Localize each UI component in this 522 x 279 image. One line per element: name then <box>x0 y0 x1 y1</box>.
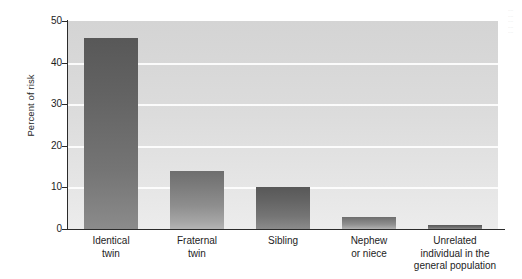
y-axis-tick-label: 50 <box>40 16 62 26</box>
bar-chart-figure: Percent of risk 01020304050 Identical tw… <box>0 0 522 279</box>
bar <box>170 171 224 229</box>
x-axis-category-label: Fraternal twin <box>152 235 242 260</box>
bar <box>84 38 138 229</box>
y-axis-tick-mark <box>62 104 68 105</box>
y-axis-tick-mark <box>62 21 68 22</box>
y-axis-title: Percent of risk <box>25 46 36 166</box>
page-margin-text: ···················· <box>508 8 522 36</box>
y-axis-tick-label: 30 <box>40 99 62 109</box>
y-axis-tick-mark <box>62 229 68 230</box>
plot-area <box>68 21 498 229</box>
y-axis-tick-label: 40 <box>40 58 62 68</box>
x-axis-category-label: Identical twin <box>66 235 156 260</box>
bar <box>342 217 396 229</box>
y-axis-tick-label: 20 <box>40 141 62 151</box>
y-axis-tick-label: 0 <box>40 224 62 234</box>
bar <box>428 225 482 229</box>
y-axis-tick-label: 10 <box>40 182 62 192</box>
y-axis-tick-mark <box>62 146 68 147</box>
x-axis-category-label: Unrelated individual in the general popu… <box>394 235 516 273</box>
y-axis-tick-mark <box>62 63 68 64</box>
bar <box>256 187 310 229</box>
y-axis-tick-labels: 01020304050 <box>38 0 62 279</box>
y-axis-tick-mark <box>62 187 68 188</box>
x-axis-category-label: Sibling <box>238 235 328 248</box>
x-axis-line <box>67 229 505 230</box>
